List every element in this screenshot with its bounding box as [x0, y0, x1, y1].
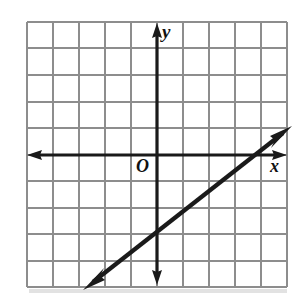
coordinate-plane-graphic [0, 0, 304, 304]
origin-label: O [136, 157, 149, 175]
grid-shadow [29, 289, 287, 293]
x-axis-label: x [270, 157, 279, 175]
y-axis-label: y [162, 22, 170, 41]
coordinate-plane-figure: y x O [0, 0, 304, 304]
